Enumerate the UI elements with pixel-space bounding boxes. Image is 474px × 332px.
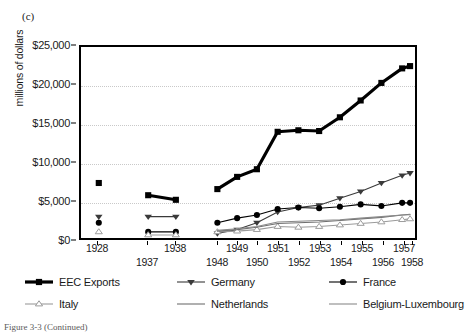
plain-line-key xyxy=(328,298,358,310)
y-axis-tick xyxy=(71,240,76,241)
legend-item[interactable]: Belgium-Luxembourg xyxy=(328,298,464,310)
legend-item[interactable]: EEC Exports xyxy=(24,276,120,288)
x-axis-tick-label: 1956 xyxy=(372,256,394,268)
x-axis-tick xyxy=(320,241,321,245)
y-axis-tick xyxy=(71,123,76,124)
plot-area xyxy=(79,45,417,240)
x-axis-tick xyxy=(362,241,363,245)
thick-square-key xyxy=(24,276,54,288)
x-axis-tick xyxy=(237,241,238,245)
series-eec-exports xyxy=(96,63,413,203)
filled-circle-key xyxy=(328,276,358,288)
x-axis-tick xyxy=(404,241,405,245)
x-axis-tick-label: 1952 xyxy=(288,256,310,268)
x-axis-tick-label: 1937 xyxy=(136,256,158,268)
x-axis-tick xyxy=(341,241,342,245)
series-layer xyxy=(81,47,415,238)
legend-item-label: Italy xyxy=(59,298,78,310)
x-axis-tick xyxy=(217,241,218,245)
y-axis-tick-label: $10,000 xyxy=(32,156,70,168)
y-axis-tick xyxy=(71,84,76,85)
legend-item-label: Netherlands xyxy=(211,298,268,310)
figure-caption: Figure 3-3 (Continued) xyxy=(4,322,304,332)
x-axis-tick xyxy=(299,241,300,245)
y-axis-tick-label: $0 xyxy=(58,234,70,246)
x-axis-tick xyxy=(175,241,176,245)
legend-item[interactable]: France xyxy=(328,276,396,288)
legend-item[interactable]: Italy xyxy=(24,298,78,310)
y-axis-tick-label: $15,000 xyxy=(32,117,70,129)
x-axis-labels: 1928193719381948194919501951195219531954… xyxy=(79,241,417,275)
y-axis-tick-label: $25,000 xyxy=(32,39,70,51)
x-axis-tick xyxy=(257,241,258,245)
x-axis-tick-label: 1958 xyxy=(401,256,423,268)
y-axis-tick xyxy=(71,162,76,163)
y-axis-tick-label: $5,000 xyxy=(38,195,70,207)
x-axis-tick xyxy=(412,241,413,245)
x-axis-tick xyxy=(383,241,384,245)
y-axis-labels: $0$5,000$10,000$15,000$20,000$25,000 xyxy=(0,45,76,240)
x-axis-tick-label: 1948 xyxy=(206,256,228,268)
legend-item-label: Germany xyxy=(211,276,255,288)
legend-item-label: France xyxy=(363,276,396,288)
x-axis-tick xyxy=(97,241,98,245)
legend-item-label: EEC Exports xyxy=(59,276,120,288)
legend-item[interactable]: Germany xyxy=(176,276,255,288)
y-axis-tick-label: $20,000 xyxy=(32,78,70,90)
x-axis-tick-label: 1950 xyxy=(246,256,268,268)
plain-line-key xyxy=(176,298,206,310)
x-axis-tick xyxy=(278,241,279,245)
legend-item[interactable]: Netherlands xyxy=(176,298,268,310)
y-axis-tick xyxy=(71,45,76,46)
y-axis-tick xyxy=(71,201,76,202)
triangle-down-key xyxy=(176,276,206,288)
x-axis-tick-label: 1954 xyxy=(330,256,352,268)
chart-legend: EEC ExportsGermanyFranceItalyNetherlands… xyxy=(24,276,470,316)
legend-item-label: Belgium-Luxembourg xyxy=(363,298,464,310)
x-axis-tick xyxy=(147,241,148,245)
open-triangle-key xyxy=(24,298,54,310)
